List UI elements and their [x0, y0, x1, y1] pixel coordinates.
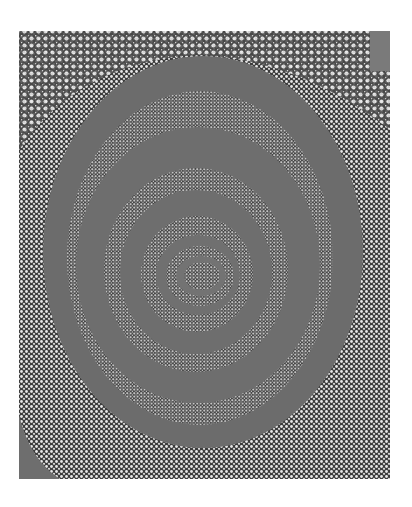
- center-dotted-oval: [184, 262, 220, 290]
- painting: Monochrome dot painting of concentric ov…: [19, 31, 390, 479]
- painting-canvas: [19, 31, 390, 479]
